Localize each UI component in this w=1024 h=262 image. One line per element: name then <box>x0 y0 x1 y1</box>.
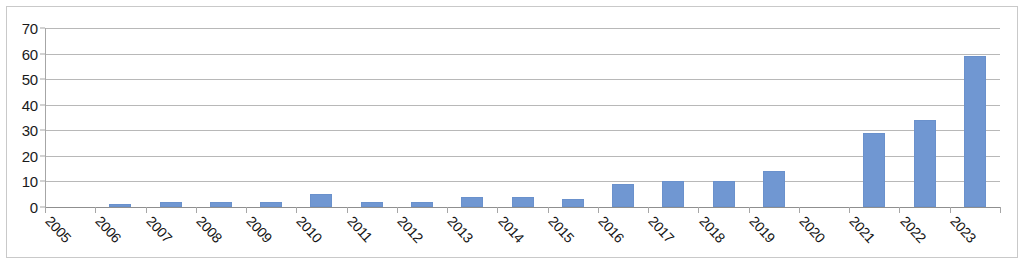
y-tick-label: 20 <box>0 148 38 163</box>
x-tick-label-2020: 2020 <box>796 213 828 246</box>
y-tick-label: 40 <box>0 97 38 112</box>
x-tick-label-2005: 2005 <box>42 213 74 246</box>
bar-2013[interactable] <box>461 197 483 207</box>
x-tick-label-2007: 2007 <box>143 213 175 246</box>
bar-2014[interactable] <box>512 197 534 207</box>
bar-2015[interactable] <box>562 199 584 207</box>
y-tick-label: 30 <box>0 123 38 138</box>
bar-2021[interactable] <box>863 133 885 207</box>
y-tick-label: 60 <box>0 46 38 61</box>
x-tick-mark <box>1000 207 1001 213</box>
y-tick-label: 10 <box>0 174 38 189</box>
y-axis: 010203040506070 <box>0 28 38 207</box>
x-tick-label-2009: 2009 <box>243 213 275 246</box>
chart-container: 010203040506070 200520062007200820092010… <box>0 0 1024 262</box>
x-tick-label-2017: 2017 <box>646 213 678 246</box>
y-tick-label: 50 <box>0 72 38 87</box>
bar-2016[interactable] <box>612 184 634 207</box>
x-tick-label-2018: 2018 <box>696 213 728 246</box>
x-tick-label-2015: 2015 <box>545 213 577 246</box>
bar-2019[interactable] <box>763 171 785 207</box>
x-tick-label-2021: 2021 <box>847 213 879 246</box>
x-tick-label-2014: 2014 <box>495 213 527 246</box>
x-axis-labels: 2005200620072008200920102011201220132014… <box>45 213 1000 262</box>
bar-2010[interactable] <box>310 194 332 207</box>
x-tick-label-2006: 2006 <box>93 213 125 246</box>
bar-2023[interactable] <box>964 56 986 207</box>
x-tick-label-2019: 2019 <box>746 213 778 246</box>
x-tick-label-2016: 2016 <box>595 213 627 246</box>
x-tick-label-2008: 2008 <box>193 213 225 246</box>
bar-series <box>45 28 1000 207</box>
y-tick-label: 70 <box>0 21 38 36</box>
bar-2022[interactable] <box>914 120 936 207</box>
y-tick-label: 0 <box>0 200 38 215</box>
x-tick-label-2022: 2022 <box>897 213 929 246</box>
x-tick-label-2013: 2013 <box>445 213 477 246</box>
bar-2018[interactable] <box>713 181 735 207</box>
x-tick-label-2010: 2010 <box>294 213 326 246</box>
bar-2017[interactable] <box>662 181 684 207</box>
x-tick-label-2023: 2023 <box>947 213 979 246</box>
x-tick-label-2012: 2012 <box>394 213 426 246</box>
x-tick-label-2011: 2011 <box>344 213 375 245</box>
